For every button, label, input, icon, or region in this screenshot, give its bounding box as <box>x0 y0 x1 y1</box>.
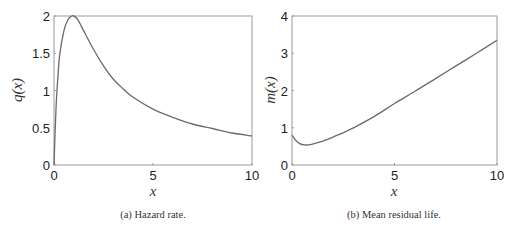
caption-b: (b) Mean residual life. <box>347 209 441 221</box>
y-axis-label: m(x) <box>262 76 279 103</box>
tick-labels: 051000.511.52 <box>32 9 259 183</box>
hazard-rate-curve <box>54 16 252 165</box>
y-tick-label: 0 <box>281 158 288 173</box>
tick-labels: 051001234 <box>281 9 504 183</box>
y-axis-label: q(x) <box>9 78 26 102</box>
x-axis-label: x <box>390 183 398 199</box>
figure: 051000.511.52 x q(x) (a) Hazard rate. 05… <box>0 0 515 227</box>
x-tick-label: 0 <box>50 168 57 183</box>
mean-residual-life-chart: 051001234 x m(x) (b) Mean residual life. <box>262 9 504 221</box>
y-tick-label: 0.5 <box>32 121 50 136</box>
y-tick-label: 1.5 <box>32 46 50 61</box>
x-tick-label: 5 <box>149 168 156 183</box>
x-tick-label: 10 <box>245 168 259 183</box>
y-tick-label: 1 <box>43 84 50 99</box>
caption-a: (a) Hazard rate. <box>120 209 186 221</box>
mean-residual-life-curve <box>292 40 497 145</box>
x-axis-label: x <box>149 183 157 199</box>
hazard-rate-chart: 051000.511.52 x q(x) (a) Hazard rate. <box>9 9 259 221</box>
y-tick-label: 0 <box>43 158 50 173</box>
y-tick-label: 2 <box>281 84 288 99</box>
plot-frame <box>54 16 252 165</box>
x-tick-label: 5 <box>391 168 398 183</box>
y-tick-label: 3 <box>281 46 288 61</box>
plot-frame <box>292 16 497 165</box>
x-tick-label: 0 <box>288 168 295 183</box>
y-tick-label: 2 <box>43 9 50 24</box>
y-tick-label: 4 <box>281 9 288 24</box>
x-tick-label: 10 <box>490 168 504 183</box>
y-tick-label: 1 <box>281 121 288 136</box>
